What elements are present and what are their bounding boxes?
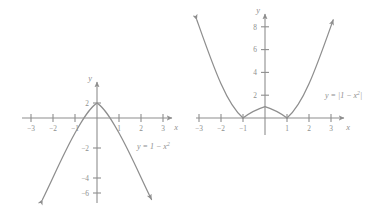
right-xtick-3: 3 (329, 124, 333, 133)
right-ytick-4: 4 (253, 68, 257, 77)
left-xtick-3: 3 (161, 124, 165, 133)
left-panel: −3 −2 −1 1 2 3 2 −2 −4 −6 x y (22, 74, 178, 203)
right-ytick-2: 2 (253, 91, 257, 100)
left-ytick--2: −2 (81, 144, 89, 153)
right-y-axis-label: y (255, 6, 260, 15)
right-ytick-8: 8 (253, 23, 257, 32)
two-graph-figure: −3 −2 −1 1 2 3 2 −2 −4 −6 x y y = 1 − x2 (0, 0, 384, 216)
right-equation-bar-close: | (360, 91, 362, 100)
right-equation-label: y = |1 − x2| (324, 90, 362, 100)
left-ytick--4: −4 (81, 174, 89, 183)
left-ytick--6: −6 (81, 189, 89, 198)
left-x-axis-label: x (173, 123, 178, 132)
right-xtick-2: 2 (307, 124, 311, 133)
right-xtick-1: 1 (285, 124, 289, 133)
left-equation-exponent: 2 (167, 141, 170, 147)
left-y-axis-label: y (87, 74, 92, 83)
right-curve-left-branch (197, 20, 243, 118)
right-x-axis-label: x (345, 123, 350, 132)
left-ytick-2: 2 (85, 99, 89, 108)
right-xtick--1: −1 (239, 124, 247, 133)
right-panel: −3 −2 −1 1 2 3 2 4 6 8 x y (195, 6, 350, 135)
right-xtick--3: −3 (195, 124, 203, 133)
right-ytick-6: 6 (253, 45, 257, 54)
left-equation-text: y = 1 − x (136, 142, 167, 151)
right-equation-body: 1 − x (340, 91, 357, 100)
right-curve-right-branch (287, 20, 333, 118)
left-xtick--2: −2 (49, 124, 57, 133)
left-xtick--3: −3 (27, 124, 35, 133)
figure-svg: −3 −2 −1 1 2 3 2 −2 −4 −6 x y y = 1 − x2 (0, 0, 384, 216)
left-equation-label: y = 1 − x2 (136, 141, 170, 151)
left-xtick-2: 2 (139, 124, 143, 133)
right-xtick--2: −2 (217, 124, 225, 133)
right-equation-prefix: y = (324, 91, 338, 100)
